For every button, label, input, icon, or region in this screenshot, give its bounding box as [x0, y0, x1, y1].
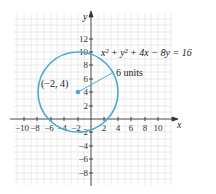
- y-tick-label: 12: [79, 34, 88, 44]
- x-tick-label: −6: [44, 123, 54, 133]
- x-tick-label: 10: [154, 123, 164, 133]
- equation-label: x² + y² + 4x − 8y = 16: [100, 47, 192, 58]
- x-axis-label: x: [176, 119, 182, 130]
- x-tick-label: 4: [116, 123, 121, 133]
- x-tick-labels: −10 −8 −6 −4 −2 2 4 6 8 10: [15, 123, 163, 133]
- axes: [10, 11, 178, 186]
- x-tick-label: −10: [15, 123, 30, 133]
- y-tick-label: −8: [78, 168, 88, 178]
- y-axis-label: y: [82, 11, 88, 22]
- x-tick-label: −8: [30, 123, 40, 133]
- x-tick-label: 6: [129, 123, 134, 133]
- radius-label: 6 units: [116, 67, 143, 78]
- center-point: [76, 90, 81, 95]
- y-tick-label: −6: [78, 154, 88, 164]
- y-tick-label: 2: [84, 101, 89, 111]
- y-axis-arrow-icon: [89, 11, 93, 17]
- y-tick-label: 8: [84, 60, 89, 70]
- coordinate-plane: −10 −8 −6 −4 −2 2 4 6 8 10 12 10 8 6 4 2…: [0, 0, 216, 194]
- x-tick-label: 8: [143, 123, 148, 133]
- center-label: (−2, 4): [41, 78, 68, 90]
- y-tick-label: −4: [78, 141, 88, 151]
- y-tick-label: 6: [84, 74, 89, 84]
